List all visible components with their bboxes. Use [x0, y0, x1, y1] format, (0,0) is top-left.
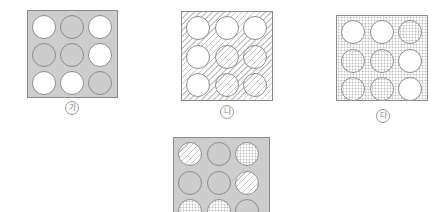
figure-da-panel: [336, 15, 428, 101]
figure-na-circle-1-0: [186, 45, 210, 69]
figure-result-panel: [173, 137, 270, 212]
figure-na-circle-1-1: [215, 45, 239, 69]
figure-ga-circle-0-2: [88, 15, 112, 39]
figure-ga-circle-1-0: [32, 43, 56, 67]
figure-da-circle-2-2: [398, 77, 422, 101]
figure-da-circle-1-1: [370, 49, 394, 73]
figure-ga-panel: [27, 10, 118, 98]
figure-result-circle-0-1: [207, 142, 231, 166]
figure-result-circle-2-0: [178, 199, 202, 212]
figure-da-circle-0-2: [398, 20, 422, 44]
figure-ga-circle-2-0: [32, 71, 56, 95]
figure-da-circle-0-1: [370, 20, 394, 44]
figure-result-circle-1-2: [235, 171, 259, 195]
figure-result-circle-0-2: [235, 142, 259, 166]
figure-result-circle-2-1: [207, 199, 231, 212]
figure-result-circle-1-1: [207, 171, 231, 195]
figure-ga-circle-0-0: [32, 15, 56, 39]
figure-na-circle-2-2: [243, 73, 267, 97]
figure-na-circle-0-1: [215, 16, 239, 40]
figure-ga-circle-2-2: [88, 71, 112, 95]
figure-result-circle-0-0: [178, 142, 202, 166]
figure-result-circle-2-2: [235, 199, 259, 212]
figure-na-circle-2-0: [186, 73, 210, 97]
figure-ga-label: 가: [65, 101, 79, 115]
figure-ga-circle-2-1: [60, 71, 84, 95]
figure-ga-circle-1-2: [88, 43, 112, 67]
figure-da-label: 다: [376, 109, 390, 123]
figure-na-circle-0-0: [186, 16, 210, 40]
figure-ga-circle-0-1: [60, 15, 84, 39]
figure-na-circle-1-2: [243, 45, 267, 69]
figure-result-circle-1-0: [178, 171, 202, 195]
figure-na-circle-0-2: [243, 16, 267, 40]
figure-da-circle-1-0: [341, 49, 365, 73]
figure-da-circle-2-0: [341, 77, 365, 101]
figure-na-label: 나: [220, 105, 234, 119]
figure-na-circle-2-1: [215, 73, 239, 97]
figure-da-circle-1-2: [398, 49, 422, 73]
figure-da-circle-0-0: [341, 20, 365, 44]
figure-da-circle-2-1: [370, 77, 394, 101]
figure-na-panel: [181, 11, 273, 101]
figure-ga-circle-1-1: [60, 43, 84, 67]
